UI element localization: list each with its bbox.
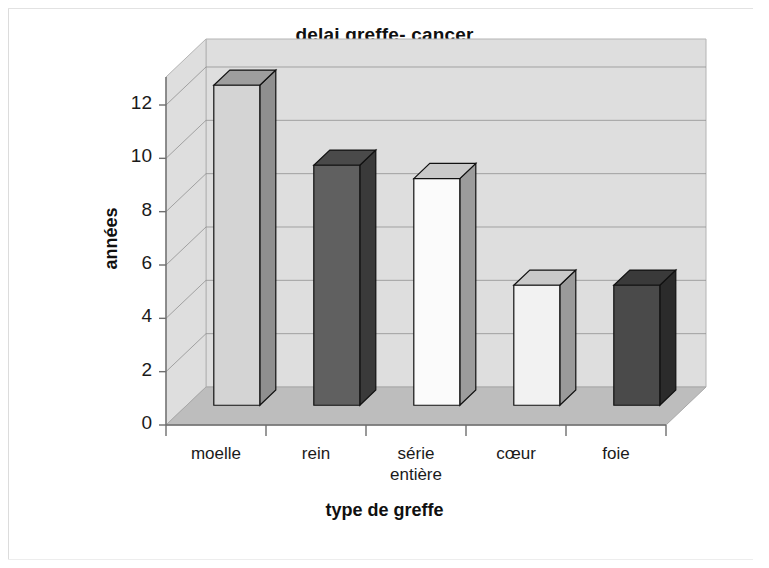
y-axis-tick-label: 12	[110, 92, 152, 114]
y-axis-tick-label: 2	[110, 359, 152, 381]
x-axis-tick-label-line: foie	[556, 443, 676, 464]
x-axis-title: type de greffe	[0, 500, 769, 521]
bar-moelle	[214, 70, 276, 405]
bar-série-entière	[414, 163, 476, 405]
chart-figure: delai greffe- cancer 024681012 moellerei…	[0, 0, 769, 568]
bar-rein	[314, 150, 376, 405]
x-axis-tick-label: foie	[556, 443, 676, 464]
y-axis-tick-label: 4	[110, 305, 152, 327]
bar-cœur	[514, 270, 576, 405]
y-axis-tick-label: 0	[110, 412, 152, 434]
y-axis-title: années	[101, 184, 122, 294]
y-axis-tick-label: 10	[110, 145, 152, 167]
bar-foie	[614, 270, 676, 405]
x-axis-tick-label-line: entière	[356, 464, 476, 485]
